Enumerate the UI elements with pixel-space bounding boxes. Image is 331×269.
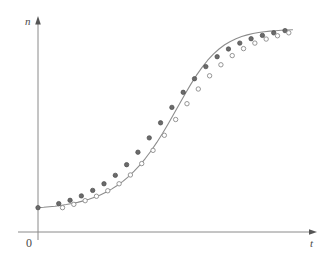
chart-plot-area [0,0,331,269]
data-point-filled [238,41,242,45]
fitted-curve-path [38,30,293,208]
y-axis-arrowhead [35,16,41,25]
data-point-filled [215,54,219,58]
data-point-open [196,87,200,91]
x-axis-arrowhead [309,229,317,235]
data-point-filled [260,33,264,37]
data-point-filled [113,173,117,177]
data-point-open [230,53,234,57]
data-point-filled [57,201,61,205]
data-point-open [106,189,110,193]
data-point-filled [226,47,230,51]
data-point-open [241,46,245,50]
data-point-filled [90,188,94,192]
data-point-filled [79,194,83,198]
data-point-open [72,202,76,206]
data-point-open [162,133,166,137]
data-point-open [275,34,279,38]
data-point-open [173,117,177,121]
data-point-filled [249,36,253,40]
data-point-open [264,37,268,41]
y-axis-label: n [25,16,31,27]
data-point-open [151,148,155,152]
origin-label: 0 [26,237,32,249]
data-point-open [185,102,189,106]
data-point-open [219,63,223,67]
data-point-filled [68,198,72,202]
fitted-curve [38,30,293,208]
data-point-filled [136,150,140,154]
chart-figure: n t 0 [0,0,331,269]
data-point-open [128,173,132,177]
data-point-open [60,205,64,209]
data-point-filled [170,105,174,109]
data-point-open [207,74,211,78]
data-point-open [140,161,144,165]
data-point-filled [102,182,106,186]
data-point-filled [204,64,208,68]
data-point-filled [192,77,196,81]
data-point-open [253,41,257,45]
data-point-open [94,194,98,198]
data-point-filled [181,90,185,94]
data-point-filled [158,121,162,125]
data-point-open [287,31,291,35]
data-point-filled [147,136,151,140]
data-point-filled [36,205,40,209]
data-point-filled [124,162,128,166]
data-point-open [117,182,121,186]
data-markers [36,28,291,209]
data-point-open [83,198,87,202]
x-axis-label: t [310,238,313,249]
